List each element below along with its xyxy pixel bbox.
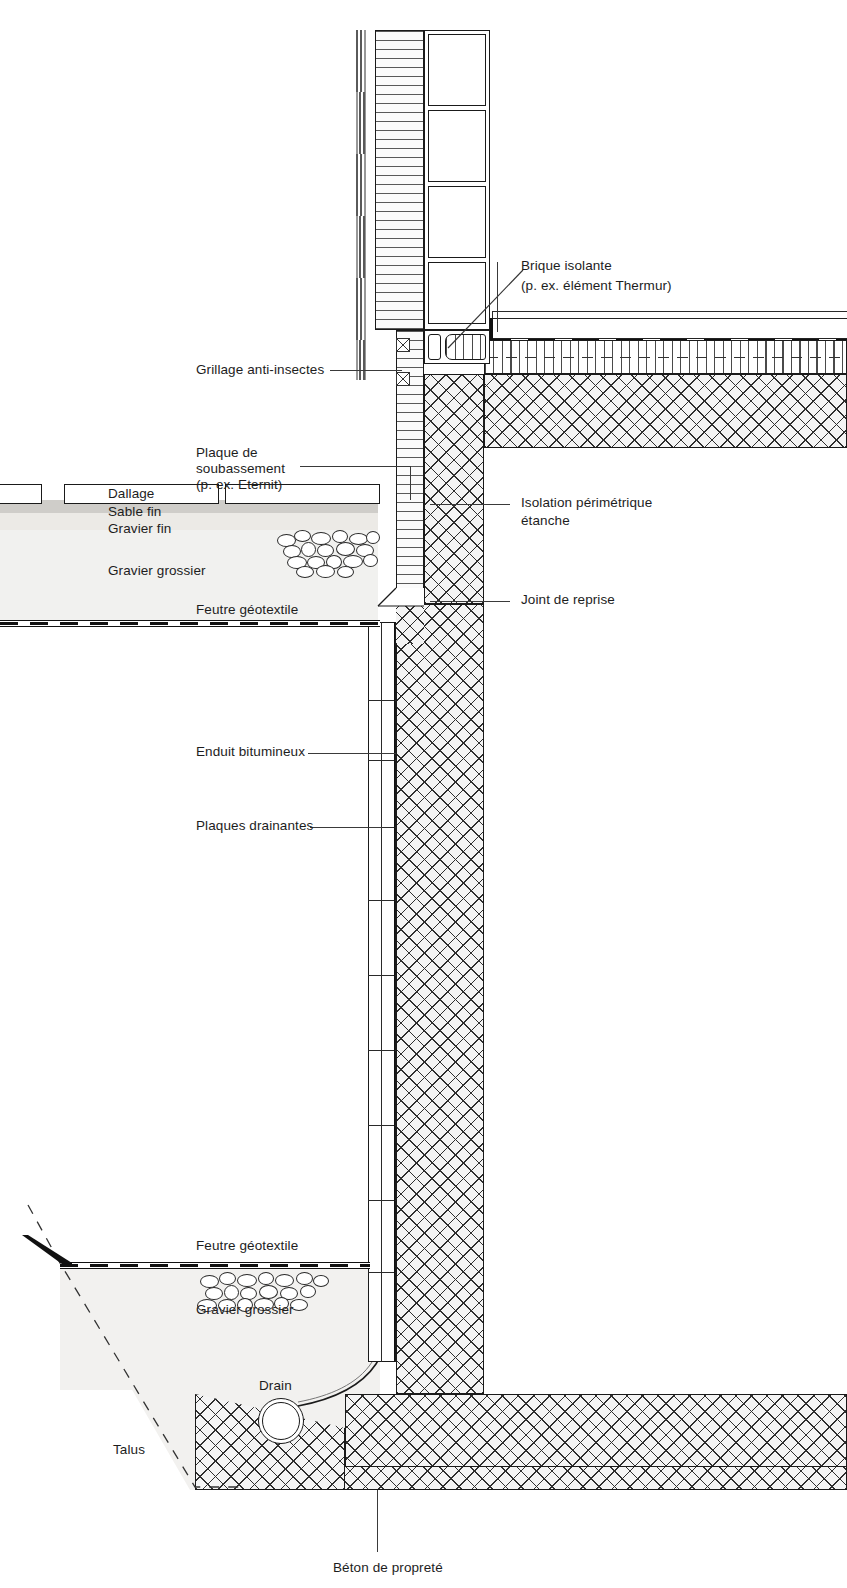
leader-plaque-soubassement-stub — [410, 466, 411, 500]
label-gravier-grossier-upper: Gravier grossier — [108, 563, 206, 579]
drainage-plate-joint-8 — [368, 1200, 396, 1201]
leader-enduit-bitumineux — [308, 753, 396, 754]
leader-plaque-soubassement — [300, 466, 410, 467]
hollow-block-cell-3 — [428, 186, 486, 258]
label-plaques-drainantes: Plaques drainantes — [196, 818, 313, 834]
label-feutre-geotextile-lower: Feutre géotextile — [196, 1238, 298, 1254]
geotextile-felt-upper — [0, 620, 380, 627]
label-joint-de-reprise: Joint de reprise — [521, 592, 615, 608]
hollow-block-cell-2 — [428, 110, 486, 182]
label-plaque-soubassement-line1: Plaque de — [196, 445, 258, 461]
floor-screed-top-line — [492, 311, 847, 312]
label-gravier-grossier-lower: Gravier grossier — [196, 1302, 294, 1318]
drainage-plate-joint-5 — [368, 975, 396, 976]
drainage-plates-panel — [368, 622, 396, 1362]
label-plaque-soubassement-line3: (p. ex. Eternit) — [196, 477, 282, 493]
label-dallage: Dallage — [108, 486, 154, 502]
leader-brique-isolante — [440, 268, 525, 350]
label-beton-de-proprete: Béton de propreté — [333, 1560, 443, 1576]
basement-concrete-wall — [396, 604, 484, 1394]
drainage-plate-joint-1 — [368, 700, 396, 701]
insect-screen-icon — [396, 338, 410, 352]
leader-plaques-drainantes — [310, 827, 382, 828]
paving-slab-left — [0, 484, 42, 504]
label-plaque-soubassement-line2: soubassement — [196, 461, 285, 477]
label-drain: Drain — [259, 1378, 292, 1394]
label-brique-isolante-line2: (p. ex. élément Thermur) — [521, 278, 672, 294]
exterior-siding-boards — [352, 30, 374, 380]
bituminous-coating-line — [394, 622, 395, 1362]
basement-wall-upper-section — [424, 374, 484, 604]
leader-joint-reprise — [430, 601, 510, 602]
label-sable-fin: Sable fin — [108, 504, 161, 520]
masonry-brick-wall — [375, 30, 424, 330]
label-feutre-geotextile-upper: Feutre géotextile — [196, 602, 298, 618]
talus-solid-segment — [20, 1235, 75, 1270]
drainage-plate-joint-6 — [368, 1050, 396, 1051]
insect-screen-icon-lower — [396, 372, 410, 386]
floor-insulation-centre-line — [487, 357, 845, 358]
label-gravier-fin: Gravier fin — [108, 521, 171, 537]
ground-floor-concrete-slab — [484, 374, 847, 448]
upper-fine-gravel-band — [0, 512, 378, 530]
label-enduit-bitumineux: Enduit bitumineux — [196, 744, 305, 760]
leader-isolation-perimetrique — [430, 504, 510, 505]
label-brique-isolante-line1: Brique isolante — [521, 258, 612, 274]
leader-brique-isolante-stub — [497, 262, 498, 332]
drainage-plate-inner-line — [381, 622, 382, 1362]
label-talus: Talus — [113, 1442, 145, 1458]
floor-screed-layer — [492, 318, 847, 339]
label-isolation-perimetrique-line1: Isolation périmétrique — [521, 495, 652, 511]
plinth-board-bottom-chamfer — [378, 588, 428, 612]
label-isolation-perimetrique-line2: étanche — [521, 513, 570, 529]
label-grillage-anti-insectes: Grillage anti-insectes — [196, 362, 324, 378]
leader-grillage — [330, 370, 402, 371]
technical-section-drawing: Brique isolante (p. ex. élément Thermur)… — [0, 0, 847, 1588]
drainage-plate-joint-4 — [368, 900, 396, 901]
hollow-block-cell-1 — [428, 34, 486, 106]
drainage-plate-joint-2 — [368, 760, 396, 761]
drainage-plate-joint-7 — [368, 1125, 396, 1126]
leader-beton-proprete — [377, 1490, 378, 1552]
drainage-plate-joint-9 — [368, 1272, 396, 1273]
